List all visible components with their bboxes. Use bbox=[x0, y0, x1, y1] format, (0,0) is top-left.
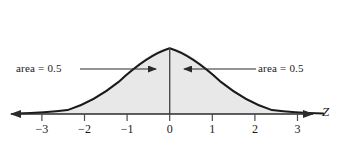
tick-label--3: −3 bbox=[30, 122, 54, 137]
tick-label--1: −1 bbox=[115, 122, 139, 137]
x-axis-ticks bbox=[42, 114, 298, 121]
tick-label-1: 1 bbox=[200, 122, 224, 137]
tick-label-2: 2 bbox=[243, 122, 267, 137]
area-label-right: area = 0.5 bbox=[258, 62, 304, 74]
normal-distribution-figure: area = 0.5 area = 0.5 −3 −2 −1 0 1 2 3 Z bbox=[0, 0, 340, 148]
area-label-left: area = 0.5 bbox=[16, 62, 62, 74]
tick-label--2: −2 bbox=[73, 122, 97, 137]
x-axis-label: Z bbox=[322, 104, 329, 120]
tick-label-0: 0 bbox=[158, 122, 182, 137]
tick-label-3: 3 bbox=[286, 122, 310, 137]
